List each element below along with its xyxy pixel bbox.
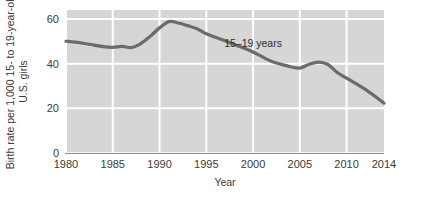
chart-container: 0204060 19801985199019952000200520102014… [0, 0, 421, 204]
x-tick-label-2005: 2005 [288, 158, 312, 170]
y-axis-title-line-1: Birth rate per 1,000 15- to 19-year-old [4, 0, 16, 169]
x-tick-label-2000: 2000 [241, 158, 265, 170]
y-tick-label-60: 60 [47, 13, 59, 25]
x-tick-label-1985: 1985 [101, 158, 125, 170]
x-tick-label-2010: 2010 [334, 158, 358, 170]
x-tick-label-1980: 1980 [54, 158, 78, 170]
y-tick-label-40: 40 [47, 58, 59, 70]
x-axis-title: Year [214, 176, 236, 188]
x-tick-label-2014: 2014 [372, 158, 396, 170]
series-annotation-label: 15–19 years [224, 37, 282, 49]
line-chart: 0204060 19801985199019952000200520102014… [0, 0, 421, 204]
y-tick-label-20: 20 [47, 102, 59, 114]
x-tick-label-1995: 1995 [194, 158, 218, 170]
x-tick-label-1990: 1990 [147, 158, 171, 170]
y-axis-title-line-2: U.S. girls [17, 60, 29, 103]
